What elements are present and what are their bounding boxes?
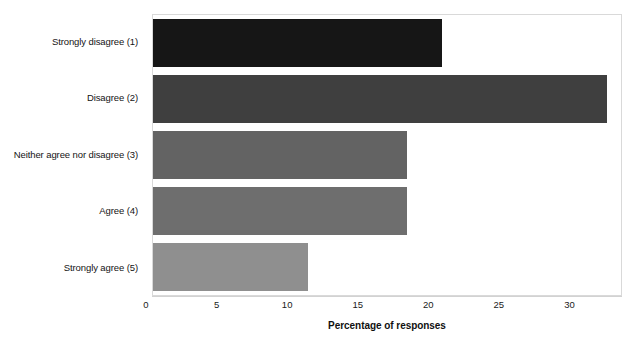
category-label-row: Disagree (2) bbox=[0, 70, 145, 126]
x-axis-title: Percentage of responses bbox=[152, 320, 622, 331]
category-label-row: Neither agree nor disagree (3) bbox=[0, 127, 145, 183]
bar-neither-agree-nor-disagree bbox=[153, 131, 407, 179]
bar-disagree bbox=[153, 75, 607, 123]
x-tick-label: 0 bbox=[143, 299, 148, 310]
x-tick-label: 10 bbox=[282, 299, 293, 310]
bar-row bbox=[153, 71, 621, 127]
bar-row bbox=[153, 239, 621, 295]
bar-row bbox=[153, 183, 621, 239]
category-axis: Strongly disagree (1) Disagree (2) Neith… bbox=[0, 14, 145, 296]
x-axis-line bbox=[152, 296, 622, 297]
x-axis-tick-labels: 0 5 10 15 20 25 30 bbox=[0, 299, 640, 315]
bar-strongly-disagree bbox=[153, 19, 442, 67]
bar-row bbox=[153, 15, 621, 71]
plot-area bbox=[152, 14, 622, 296]
category-label: Neither agree nor disagree (3) bbox=[14, 150, 138, 160]
x-tick-label: 5 bbox=[214, 299, 219, 310]
x-tick-label: 25 bbox=[494, 299, 505, 310]
category-label: Strongly agree (5) bbox=[64, 263, 138, 273]
bar-strongly-agree bbox=[153, 243, 308, 291]
category-label-row: Strongly agree (5) bbox=[0, 240, 145, 296]
category-label: Disagree (2) bbox=[87, 93, 138, 103]
bars-layer bbox=[153, 15, 621, 295]
x-tick-label: 15 bbox=[352, 299, 363, 310]
bar-row bbox=[153, 127, 621, 183]
category-label-row: Agree (4) bbox=[0, 183, 145, 239]
x-tick-label: 20 bbox=[423, 299, 434, 310]
x-tick-label: 30 bbox=[564, 299, 575, 310]
category-label-row: Strongly disagree (1) bbox=[0, 14, 145, 70]
category-label: Strongly disagree (1) bbox=[52, 37, 138, 47]
bar-chart-figure: Strongly disagree (1) Disagree (2) Neith… bbox=[0, 0, 640, 349]
bar-agree bbox=[153, 187, 407, 235]
category-label: Agree (4) bbox=[99, 206, 138, 216]
